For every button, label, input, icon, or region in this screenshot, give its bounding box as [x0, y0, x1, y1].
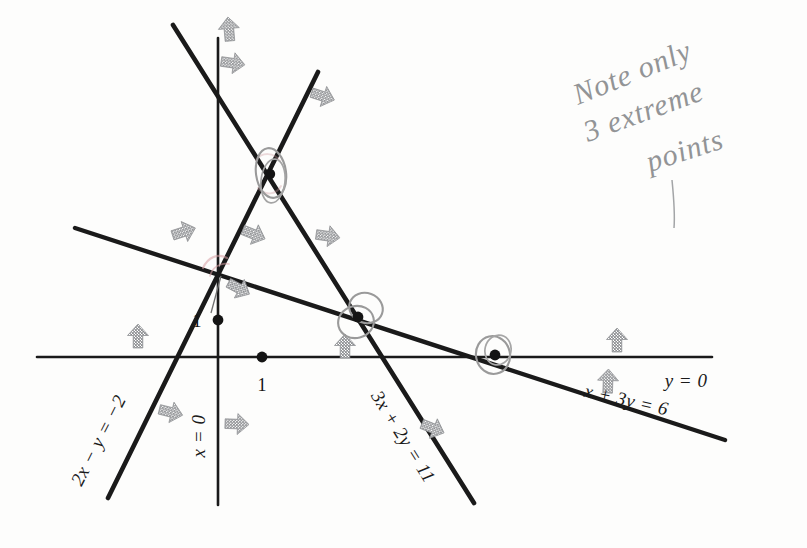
- figure-canvas: 1 1 2x − y = −2 3x + 2y = 11 x + 3y = 6 …: [0, 0, 807, 548]
- vertex-dot: [265, 169, 275, 179]
- vertex-dot: [353, 312, 364, 323]
- graph-svg: 1 1 2x − y = −2 3x + 2y = 11 x + 3y = 6 …: [0, 0, 807, 548]
- label-x-0: x = 0: [188, 415, 209, 459]
- label-y-0: y = 0: [663, 370, 708, 391]
- vertex-dot: [490, 350, 501, 361]
- x-tick-label: 1: [258, 375, 267, 395]
- y-tick-label: 1: [193, 311, 202, 331]
- dot-y-unit: [213, 315, 224, 326]
- dot-x-unit: [257, 352, 268, 363]
